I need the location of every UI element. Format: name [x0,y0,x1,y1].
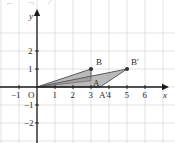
y-tick-label-2: 2 [28,47,33,56]
y-tick-label-1: 1 [28,65,33,74]
point-label-B: B [96,58,102,67]
x-tick-label-6: 6 [143,91,148,100]
x-tick-label-5: 5 [125,91,130,100]
x-axis-label: x [163,91,167,100]
x-tick-label-2: 2 [71,91,76,100]
origin-label: O [28,91,35,100]
x-tick-label-1: 1 [53,91,58,100]
y-tick-label--1: −1 [24,101,34,110]
point-label-Bp: B′ [131,58,139,67]
x-tick-label--1: −1 [11,91,21,100]
x-tick-label-3: 3 [89,91,94,100]
y-axis-label: y [29,12,33,21]
triangle-shapes [37,69,127,87]
point-label-A: A [93,79,100,88]
y-tick-label--2: −2 [24,119,34,128]
point-label-Ap: A′ [99,91,107,100]
